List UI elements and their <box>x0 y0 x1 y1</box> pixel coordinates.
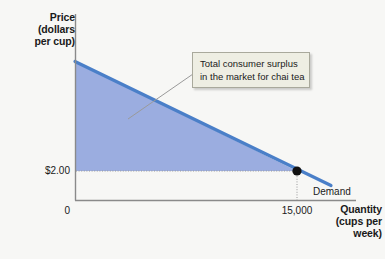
equilibrium-point-dot <box>292 166 301 175</box>
consumer-surplus-callout-text: Total consumer surplus in the market for… <box>200 58 306 83</box>
chart-figure: Price (dollars per cup) $2.00 0 15,000 Q… <box>0 0 385 259</box>
axis-origin-label: 0 <box>46 205 70 216</box>
x-axis-title: Quantity (cups per week) <box>318 204 382 239</box>
consumer-surplus-callout: Total consumer surplus in the market for… <box>192 52 310 88</box>
y-axis-title: Price (dollars per cup) <box>34 12 75 47</box>
y-axis-tick-label-price: $2.00 <box>26 165 70 176</box>
demand-curve-label: Demand <box>313 186 351 197</box>
